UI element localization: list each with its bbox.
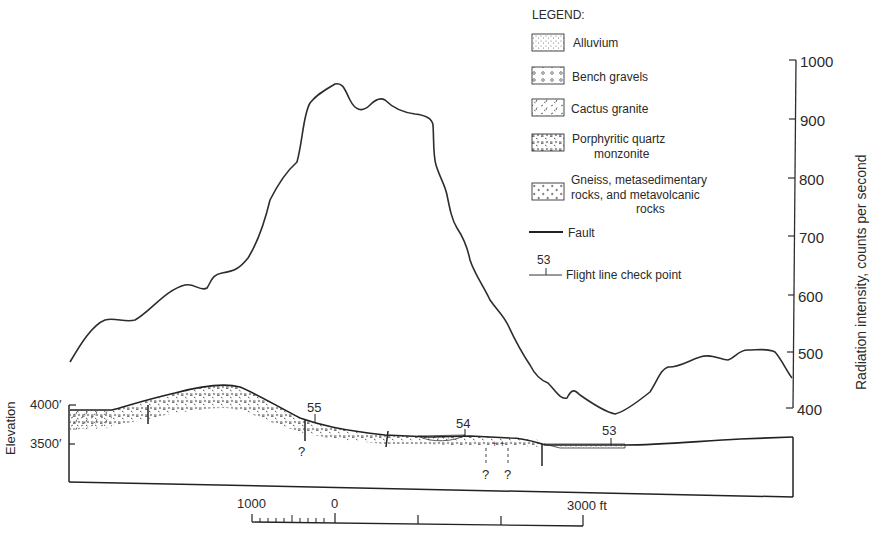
legend-fault: Fault: [568, 226, 595, 240]
unknown-mark-2: ?: [482, 467, 489, 482]
fault-3: [386, 431, 388, 447]
legend-bench-gravels: Bench gravels: [572, 70, 648, 84]
section-base-line: [69, 482, 793, 497]
radiation-axis: 1000 900 800 700 600 500 400 Radiation i…: [786, 53, 869, 418]
legend-gneiss-line2: rocks, and metavolcanic: [571, 188, 700, 202]
legend-gneiss-line3: rocks: [636, 202, 665, 216]
porphyritic-swatch-icon: [532, 134, 564, 151]
bench-gravels-swatch-icon: [532, 67, 564, 84]
legend-alluvium: Alluvium: [573, 36, 618, 50]
legend-porphyritic-line2: monzonite: [594, 147, 650, 161]
radiation-axis-label: Radiation intensity, counts per second: [853, 154, 869, 390]
scale-label-3000ft: 3000 ft: [567, 498, 607, 513]
tick-800: 800: [799, 171, 824, 188]
legend-gneiss-line1: Gneiss, metasedimentary: [571, 173, 707, 187]
tick-700: 700: [799, 229, 824, 246]
elevation-tick-4000: 4000′: [30, 397, 62, 412]
legend-checkpoint: Flight line check point: [566, 268, 682, 282]
tick-500: 500: [798, 345, 823, 362]
legend-porphyritic-line1: Porphyritic quartz: [572, 132, 665, 146]
gneiss-mark-icon: + +: [492, 439, 505, 449]
tick-400: 400: [797, 401, 822, 418]
tick-600: 600: [798, 288, 823, 305]
tick-1000: 1000: [800, 53, 833, 70]
unknown-mark-1: ?: [298, 444, 305, 459]
scale-bar: 1000 0 3000 ft: [237, 496, 607, 526]
cactus-granite-unit: [70, 410, 112, 430]
checkpoint-54: 54: [456, 416, 470, 431]
elevation-axis-label: Elevation: [3, 402, 18, 455]
elevation-tick-3500: 3500′: [30, 436, 62, 451]
legend-cactus-granite: Cactus granite: [571, 102, 649, 116]
legend-title: LEGEND:: [532, 8, 585, 22]
radiation-curve: [70, 84, 792, 414]
checkpoint-55: 55: [307, 400, 321, 415]
legend-checkpoint-number: 53: [537, 253, 551, 267]
checkpoint-53: 53: [602, 423, 616, 438]
tick-900: 900: [800, 112, 825, 129]
gneiss-swatch-icon: [532, 183, 564, 200]
geologic-radiation-figure: 1000 900 800 700 600 500 400 Radiation i…: [0, 0, 878, 535]
alluvium-swatch-icon: [532, 34, 564, 51]
legend: LEGEND: Alluvium Bench gravels Cactus gr…: [529, 8, 707, 282]
unknown-mark-3: ?: [504, 467, 511, 482]
scale-label-0: 0: [331, 496, 338, 511]
cactus-granite-swatch-icon: [532, 99, 564, 116]
geologic-section: + + 55 54 53 ? ? ? 4000′ 3500′ Elevation: [3, 385, 793, 497]
scale-label-1000: 1000: [237, 496, 266, 511]
